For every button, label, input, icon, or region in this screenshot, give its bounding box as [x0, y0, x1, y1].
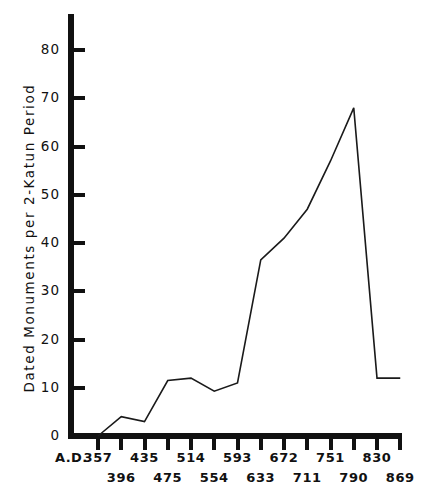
y-axis-tick	[74, 386, 85, 390]
x-axis-era-label: A.D.	[55, 450, 88, 465]
y-axis-tick-label: 30	[0, 282, 60, 298]
x-axis-tick-label: 396	[98, 470, 144, 485]
x-axis-tick-label: 751	[308, 450, 354, 465]
x-axis-tick-label: 475	[145, 470, 191, 485]
y-axis-tick-label: 80	[0, 41, 60, 57]
x-axis-tick-label: 790	[331, 470, 377, 485]
y-axis-tick	[74, 241, 85, 245]
x-axis-tick	[259, 439, 263, 450]
y-axis-tick-label: 60	[0, 138, 60, 154]
y-axis-line	[68, 14, 74, 439]
x-axis-tick	[329, 439, 333, 450]
chart-container: Dated Monuments per 2-Katun Period 01020…	[0, 0, 432, 500]
x-axis-tick-label: 435	[122, 450, 168, 465]
y-axis-tick	[74, 145, 85, 149]
x-axis-tick-label: 633	[238, 470, 284, 485]
x-axis-tick	[236, 439, 240, 450]
y-axis-tick-label: 20	[0, 331, 60, 347]
y-axis-tick	[74, 338, 85, 342]
x-axis-tick	[119, 439, 123, 450]
x-axis-tick-label: 711	[284, 470, 330, 485]
data-line-plot	[0, 0, 432, 500]
y-axis-tick-label: 50	[0, 186, 60, 202]
y-axis-tick-label: 40	[0, 234, 60, 250]
y-axis-tick-label: 70	[0, 89, 60, 105]
x-axis-tick	[96, 439, 100, 450]
y-axis-tick	[74, 193, 85, 197]
x-axis-tick	[166, 439, 170, 450]
x-axis-tick	[375, 439, 379, 450]
x-axis-tick	[212, 439, 216, 450]
x-axis-tick	[143, 439, 147, 450]
x-axis-tick	[398, 439, 402, 450]
y-axis-tick	[74, 289, 85, 293]
data-series-line	[98, 108, 400, 436]
y-axis-tick-label: 10	[0, 379, 60, 395]
y-axis-tick	[74, 48, 85, 52]
x-axis-tick-label: 593	[215, 450, 261, 465]
x-axis-tick-label: 672	[261, 450, 307, 465]
y-axis-tick-label: 0	[0, 427, 60, 443]
x-axis-tick-label: 869	[377, 470, 423, 485]
x-axis-tick	[305, 439, 309, 450]
x-axis-tick-label: 554	[191, 470, 237, 485]
x-axis-tick	[189, 439, 193, 450]
y-axis-tick	[74, 96, 85, 100]
x-axis-tick-label: 830	[354, 450, 400, 465]
x-axis-tick	[282, 439, 286, 450]
x-axis-tick	[352, 439, 356, 450]
x-axis-tick-label: 514	[168, 450, 214, 465]
